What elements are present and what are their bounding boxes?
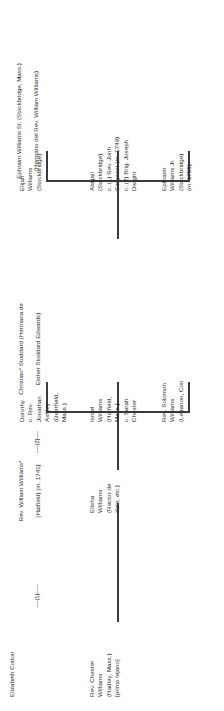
- connector-label-1: ----(1)-----: [33, 584, 40, 608]
- family-tree-canvas: Ephraim Williams Sr. (Stockbridge, Mass.…: [0, 0, 224, 711]
- parent-line-2: (Hatfield) (m. 1741): [34, 401, 43, 581]
- child-node-abigail: Abigail (Stockbridge) c. (1) Rev. Jonh S…: [88, 31, 138, 191]
- bracket-arm-solomon: [188, 382, 190, 413]
- parent-label-william-williams: Rev. William Williams* (Hatfield) (m. 17…: [8, 401, 51, 581]
- spouse-label-elizabeth-cotton: Elizabeth Cotton: [8, 577, 17, 697]
- child-node-ephraim-jr: Ephraim Williams Jr. (Stockbridge) (m. 1…: [160, 31, 194, 191]
- bracket-arm-elijah: [46, 151, 48, 182]
- child-node-solomon: Rev. Solomon Williams (Lebanon, Con: [160, 262, 185, 422]
- child-node-elisha: Elisha Williams (Rector de Yale, etc.): [88, 353, 122, 513]
- parent-line-1: Rev. William Williams*: [17, 401, 26, 581]
- child-node-dorothy: Dorothy c. Rev. Jonathan Ashley (Deerfie…: [18, 262, 68, 422]
- child-node-elijah: Elijah Williams (Stockbridge): [18, 31, 43, 191]
- standalone-node-chester: Rev. Chester Williams (Hadley, Mass.) [p…: [88, 537, 122, 697]
